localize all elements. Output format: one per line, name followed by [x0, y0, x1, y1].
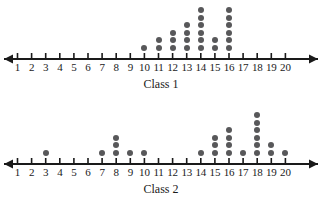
- data-dot: [198, 7, 204, 13]
- axis-tick-label: 1: [15, 166, 20, 179]
- axis-tick-label: 20: [280, 61, 291, 74]
- plot-area-class-2: 1234567891011121314151617181920 Class 2: [0, 99, 322, 199]
- axis-tick-label: 13: [181, 61, 192, 74]
- data-dot: [184, 22, 190, 28]
- axis-tick-label: 11: [153, 61, 163, 74]
- tick-labels-class-1: 1234567891011121314151617181920: [0, 61, 322, 75]
- data-dot: [198, 37, 204, 43]
- dot-plot-class-1: 1234567891011121314151617181920 Class 1: [0, 0, 322, 96]
- data-dot: [254, 127, 260, 133]
- data-dot: [212, 37, 218, 43]
- axis-tick-label: 19: [266, 166, 277, 179]
- axis-tick-label: 9: [128, 61, 133, 74]
- data-dot: [254, 142, 260, 148]
- axis-tick-label: 1: [15, 61, 20, 74]
- data-dot: [212, 135, 218, 141]
- data-dot: [226, 142, 232, 148]
- dots-layer-class-2: [0, 99, 322, 157]
- data-dot: [226, 135, 232, 141]
- data-dot: [198, 22, 204, 28]
- axis-tick-label: 10: [139, 166, 150, 179]
- axis-tick-label: 3: [43, 166, 48, 179]
- axis-tick-label: 7: [99, 61, 104, 74]
- axis-tick-label: 15: [210, 166, 221, 179]
- axis-tick-label: 4: [57, 166, 62, 179]
- axis-tick-label: 7: [99, 166, 104, 179]
- data-dot: [226, 15, 232, 21]
- dots-layer-class-1: [0, 0, 322, 52]
- data-dot: [198, 30, 204, 36]
- dot-plot-figure: 1234567891011121314151617181920 Class 1 …: [0, 0, 322, 199]
- axis-tick-label: 5: [71, 61, 76, 74]
- axis-tick-label: 15: [210, 61, 221, 74]
- data-dot: [226, 22, 232, 28]
- axis-tick-label: 16: [224, 61, 235, 74]
- data-dot: [226, 7, 232, 13]
- plot-area-class-1: 1234567891011121314151617181920 Class 1: [0, 0, 322, 96]
- data-dot: [156, 37, 162, 43]
- axis-tick-label: 2: [29, 166, 34, 179]
- data-dot: [170, 37, 176, 43]
- axis-tick-label: 10: [139, 61, 150, 74]
- axis-tick-label: 6: [85, 61, 90, 74]
- axis-tick-label: 18: [252, 166, 263, 179]
- axis-tick-label: 14: [195, 166, 206, 179]
- axis-tick-label: 16: [224, 166, 235, 179]
- data-dot: [170, 30, 176, 36]
- tick-labels-class-2: 1234567891011121314151617181920: [0, 166, 322, 180]
- axis-tick-label: 12: [167, 166, 178, 179]
- data-dot: [198, 15, 204, 21]
- data-dot: [184, 37, 190, 43]
- axis-tick-label: 14: [195, 61, 206, 74]
- data-dot: [113, 142, 119, 148]
- axis-tick-label: 19: [266, 61, 277, 74]
- axis-tick-label: 4: [57, 61, 62, 74]
- axis-tick-label: 2: [29, 61, 34, 74]
- data-dot: [254, 120, 260, 126]
- data-dot: [113, 135, 119, 141]
- axis-tick-label: 17: [238, 166, 249, 179]
- axis-tick-label: 18: [252, 61, 263, 74]
- axis-tick-label: 17: [238, 61, 249, 74]
- axis-tick-label: 6: [85, 166, 90, 179]
- axis-tick-label: 11: [153, 166, 163, 179]
- caption-class-1: Class 1: [0, 77, 322, 91]
- data-dot: [268, 142, 274, 148]
- axis-tick-label: 5: [71, 166, 76, 179]
- data-dot: [226, 127, 232, 133]
- axis-tick-label: 9: [128, 166, 133, 179]
- data-dot: [254, 112, 260, 118]
- axis-tick-label: 20: [280, 166, 291, 179]
- data-dot: [212, 142, 218, 148]
- axis-tick-label: 8: [114, 166, 119, 179]
- axis-tick-label: 13: [181, 166, 192, 179]
- axis-tick-label: 12: [167, 61, 178, 74]
- caption-class-2: Class 2: [0, 182, 322, 196]
- data-dot: [254, 135, 260, 141]
- axis-tick-label: 8: [114, 61, 119, 74]
- data-dot: [226, 30, 232, 36]
- dot-plot-class-2: 1234567891011121314151617181920 Class 2: [0, 99, 322, 199]
- axis-tick-label: 3: [43, 61, 48, 74]
- data-dot: [184, 30, 190, 36]
- data-dot: [226, 37, 232, 43]
